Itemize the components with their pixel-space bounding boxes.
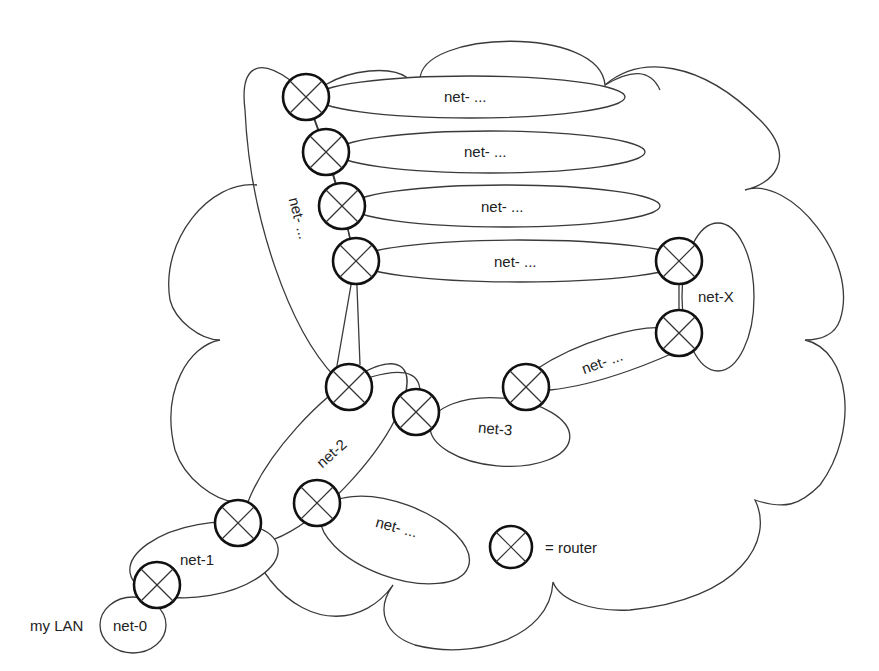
router-icon <box>319 183 365 229</box>
legend-router-icon <box>490 526 532 568</box>
router-icon <box>303 129 349 175</box>
label-net-0: net-0 <box>113 617 147 634</box>
router-icon <box>656 310 702 356</box>
legend: = router <box>490 526 597 568</box>
label-net-x: net-X <box>698 288 734 305</box>
router-icon <box>656 238 702 284</box>
router-icon <box>283 74 329 120</box>
label-net-3: net-3 <box>477 419 513 439</box>
label-net-top4: net- ... <box>494 253 537 270</box>
label-net-top2: net- ... <box>464 143 507 160</box>
label-net-top1: net- ... <box>444 88 487 105</box>
label-net-vertical: net- ... <box>286 195 313 240</box>
router-icon <box>326 364 372 410</box>
label-net-1: net-1 <box>180 551 214 568</box>
label-my-lan: my LAN <box>30 617 83 634</box>
cloud-top-lobe-right <box>605 74 660 90</box>
router-icon <box>393 389 439 435</box>
router-icon <box>503 364 549 410</box>
cloud-left-lobe <box>169 185 257 502</box>
router-icon <box>333 238 379 284</box>
router-icon <box>215 500 261 546</box>
router-icon <box>294 480 340 526</box>
router-icon <box>134 562 180 608</box>
legend-text: = router <box>545 539 597 556</box>
label-net-top3: net- ... <box>481 198 524 215</box>
network-topology-diagram: my LAN net-0 net-1 net-2 net-3 net-X net… <box>0 0 879 671</box>
